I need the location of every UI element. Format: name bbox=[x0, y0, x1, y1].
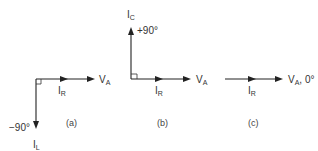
panel-c: VA, 0° IR (c) bbox=[225, 74, 314, 128]
ic-label: IC bbox=[127, 9, 135, 21]
ir-arrowhead-icon bbox=[248, 76, 256, 82]
caption-c: (c) bbox=[248, 118, 259, 128]
va-arrowhead-icon bbox=[275, 76, 283, 82]
caption-b: (b) bbox=[157, 118, 168, 128]
ic-angle-label: +90° bbox=[137, 25, 158, 36]
ir-label-b: IR bbox=[155, 85, 163, 97]
il-arrowhead-icon bbox=[33, 121, 39, 129]
ir-label-a: IR bbox=[58, 85, 66, 97]
panel-a: VA IR −90° IL (a) bbox=[9, 74, 111, 151]
right-angle-marker-icon bbox=[131, 74, 137, 79]
il-label: IL bbox=[33, 139, 40, 151]
right-angle-marker-icon bbox=[36, 79, 41, 84]
panel-b: IC +90° VA IR (b) bbox=[127, 9, 208, 128]
va-label-a: VA bbox=[99, 74, 111, 86]
ir-arrowhead-icon bbox=[60, 76, 68, 82]
ir-label-c: IR bbox=[248, 85, 256, 97]
caption-a: (a) bbox=[66, 118, 77, 128]
va-label-b: VA bbox=[196, 74, 208, 86]
ir-arrowhead-icon bbox=[155, 76, 163, 82]
ic-arrowhead-icon bbox=[128, 27, 134, 35]
phasor-diagram: VA IR −90° IL (a) IC +90° VA IR (b) VA, … bbox=[0, 0, 318, 151]
va-label-c: VA, 0° bbox=[288, 74, 314, 86]
va-arrowhead-icon bbox=[183, 76, 191, 82]
il-angle-label: −90° bbox=[9, 122, 30, 133]
va-arrowhead-icon bbox=[87, 76, 95, 82]
